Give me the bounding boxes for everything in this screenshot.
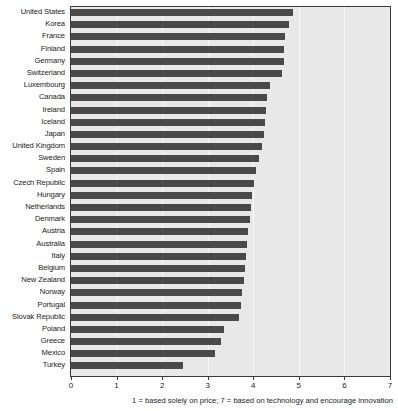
bar-row [71,7,390,19]
bar [71,107,266,114]
bar-chart: United StatesKoreaFranceFinlandGermanySw… [0,0,398,411]
bar [71,9,293,16]
category-label: Slovak Republic [0,311,68,323]
axis-tick-label: 6 [342,381,346,390]
category-label: Hungary [0,189,68,201]
bar [71,70,282,77]
axis-tick [162,377,163,380]
category-label: United Kingdom [0,140,68,152]
bar-row [71,31,390,43]
bar [71,216,250,223]
axis-tick [299,377,300,380]
category-label: Iceland [0,116,68,128]
category-label: Germany [0,55,68,67]
category-label: New Zealand [0,274,68,286]
bar-row [71,336,390,348]
category-label: Netherlands [0,201,68,213]
category-label: Japan [0,128,68,140]
category-label: Greece [0,335,68,347]
category-label: Italy [0,250,68,262]
bar [71,143,262,150]
bar [71,338,221,345]
bar-row [71,178,390,190]
bar [71,167,256,174]
bar-row [71,324,390,336]
bar [71,314,239,321]
category-label: Ireland [0,104,68,116]
bar-row [71,360,390,372]
category-label: Norway [0,286,68,298]
category-label: Luxembourg [0,79,68,91]
axis-tick-label: 7 [388,381,392,390]
plot-area [70,6,391,377]
bar-row [71,202,390,214]
bar-row [71,68,390,80]
bar [71,82,270,89]
bar [71,241,247,248]
bar [71,119,265,126]
category-axis-labels: United StatesKoreaFranceFinlandGermanySw… [0,6,68,372]
bar-row [71,117,390,129]
axis-tick-label: 5 [297,381,301,390]
axis-tick [208,377,209,380]
axis-tick-label: 0 [69,381,73,390]
axis-tick [71,377,72,380]
bar [71,94,267,101]
bar-row [71,287,390,299]
category-label: Portugal [0,299,68,311]
bar [71,253,246,260]
axis-tick [117,377,118,380]
bar [71,192,252,199]
axis-tick-label: 1 [114,381,118,390]
axis-tick [390,377,391,380]
bar [71,155,259,162]
bar [71,180,254,187]
bar [71,33,285,40]
bar-row [71,251,390,263]
category-label: Finland [0,43,68,55]
bar [71,289,242,296]
bar [71,362,183,369]
category-label: France [0,30,68,42]
bar [71,46,284,53]
bar-row [71,19,390,31]
category-label: Sweden [0,152,68,164]
bar-row [71,153,390,165]
category-label: United States [0,6,68,18]
axis-tick-label: 3 [205,381,209,390]
category-label: Czech Republic [0,177,68,189]
bar [71,21,289,28]
category-label: Spain [0,164,68,176]
bar [71,228,248,235]
category-label: Australia [0,238,68,250]
category-label: Mexico [0,347,68,359]
axis-tick [253,377,254,380]
bar [71,326,224,333]
bar-row [71,56,390,68]
category-label: Canada [0,91,68,103]
bar-row [71,92,390,104]
bar-series [71,7,390,376]
category-label: Denmark [0,213,68,225]
bar-row [71,214,390,226]
category-label: Belgium [0,262,68,274]
bar [71,58,284,65]
chart-annotation: 1 = based solely on price; 7 = based on … [0,396,396,405]
category-label: Korea [0,18,68,30]
bar [71,265,245,272]
bar-row [71,239,390,251]
bar-row [71,300,390,312]
bar-row [71,80,390,92]
bar-row [71,275,390,287]
bar [71,277,244,284]
bar-row [71,190,390,202]
bar-row [71,312,390,324]
category-label: Switzerland [0,67,68,79]
bar-row [71,141,390,153]
bar [71,350,215,357]
category-label: Poland [0,323,68,335]
bar [71,204,251,211]
bar [71,302,241,309]
category-label: Austria [0,225,68,237]
bar-row [71,348,390,360]
